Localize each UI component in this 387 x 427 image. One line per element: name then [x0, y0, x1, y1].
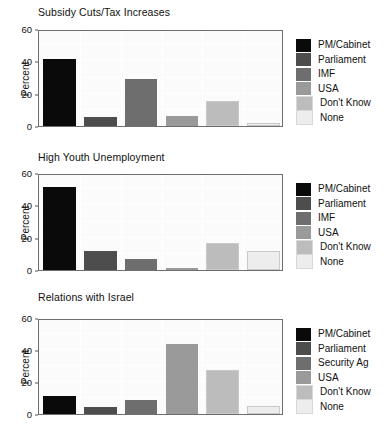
legend-label: Don't Know: [320, 98, 371, 108]
legend-label: PM/Cabinet: [318, 329, 370, 339]
y-tick-mark: [35, 383, 38, 384]
legend-swatch-icon: [296, 240, 313, 255]
legend-item[interactable]: Don't Know: [296, 96, 371, 111]
legend-swatch-icon: [296, 82, 311, 95]
legend-label: USA: [318, 373, 339, 383]
gridline-vertical: [121, 320, 122, 414]
gridline-vertical: [243, 175, 244, 270]
legend-label: PM/Cabinet: [318, 184, 370, 194]
legend-label: USA: [318, 228, 339, 238]
legend: PM/CabinetParliamentIMFUSADon't KnowNone: [296, 182, 371, 269]
legend-label: None: [320, 257, 344, 267]
bar: [206, 101, 239, 126]
y-tick-label: 40: [12, 58, 32, 68]
figure-panel: Subsidy Cuts/Tax IncreasesPercent0204060…: [0, 0, 387, 427]
legend-label: None: [320, 402, 344, 412]
legend-swatch-icon: [296, 254, 313, 269]
legend-item[interactable]: Parliament: [296, 342, 371, 357]
plot-area: [38, 319, 283, 415]
legend-swatch-icon: [296, 53, 311, 66]
legend-item[interactable]: None: [296, 111, 371, 126]
legend-item[interactable]: USA: [296, 226, 371, 241]
gridline-horizontal: [39, 349, 282, 350]
legend-item[interactable]: Parliament: [296, 53, 371, 68]
legend-label: PM/Cabinet: [318, 40, 370, 50]
y-tick-mark: [35, 62, 38, 63]
bar: [166, 268, 199, 270]
legend-item[interactable]: None: [296, 400, 371, 415]
chart-title: Relations with Israel: [38, 291, 134, 303]
y-tick-mark: [35, 319, 38, 320]
bar: [206, 243, 239, 270]
legend-item[interactable]: USA: [296, 82, 371, 97]
legend-swatch-icon: [296, 342, 311, 355]
legend-item[interactable]: Security Ag: [296, 356, 371, 371]
legend-item[interactable]: None: [296, 255, 371, 270]
chart-title: High Youth Unemployment: [38, 151, 165, 163]
y-tick-label: 0: [12, 410, 32, 420]
bar: [125, 400, 158, 414]
bar: [125, 259, 158, 270]
legend-label: USA: [318, 84, 339, 94]
gridline-horizontal: [39, 44, 282, 45]
y-tick-mark: [35, 415, 38, 416]
legend-item[interactable]: PM/Cabinet: [296, 38, 371, 53]
legend-swatch-icon: [296, 371, 311, 384]
gridline-horizontal: [39, 333, 282, 334]
gridline-vertical: [243, 320, 244, 414]
legend-item[interactable]: IMF: [296, 67, 371, 82]
legend-swatch-icon: [296, 96, 313, 111]
y-tick-mark: [35, 174, 38, 175]
y-tick-label: 20: [12, 378, 32, 388]
gridline-vertical: [80, 175, 81, 270]
legend-item[interactable]: PM/Cabinet: [296, 182, 371, 197]
y-tick-mark: [35, 127, 38, 128]
legend-item[interactable]: Don't Know: [296, 240, 371, 255]
gridline-vertical: [121, 175, 122, 270]
y-tick-label: 60: [12, 169, 32, 179]
legend-item[interactable]: USA: [296, 371, 371, 386]
y-tick-mark: [35, 206, 38, 207]
y-tick-label: 0: [12, 266, 32, 276]
legend-label: Security Ag: [318, 358, 369, 368]
legend-swatch-icon: [296, 212, 311, 225]
plot-area: [38, 30, 283, 127]
y-tick-label: 40: [12, 202, 32, 212]
legend-item[interactable]: PM/Cabinet: [296, 327, 371, 342]
legend-swatch-icon: [296, 399, 313, 414]
gridline-vertical: [162, 31, 163, 126]
y-tick-label: 0: [12, 122, 32, 132]
gridline-vertical: [202, 175, 203, 270]
legend-label: IMF: [318, 213, 335, 223]
y-tick-label: 60: [12, 25, 32, 35]
legend: PM/CabinetParliamentIMFUSADon't KnowNone: [296, 38, 371, 125]
legend-label: Don't Know: [320, 387, 371, 397]
bar: [166, 116, 199, 126]
bar: [166, 344, 199, 414]
bar: [43, 396, 76, 414]
legend-item[interactable]: Don't Know: [296, 385, 371, 400]
y-tick-mark: [35, 351, 38, 352]
legend-label: Parliament: [318, 199, 366, 209]
legend-swatch-icon: [296, 197, 311, 210]
legend-swatch-icon: [296, 68, 311, 81]
legend-item[interactable]: Parliament: [296, 197, 371, 212]
bar: [247, 123, 280, 126]
y-tick-mark: [35, 30, 38, 31]
gridline-vertical: [121, 31, 122, 126]
chart-title: Subsidy Cuts/Tax Increases: [38, 6, 170, 18]
y-tick-label: 60: [12, 314, 32, 324]
bar: [43, 59, 76, 126]
bar: [125, 79, 158, 126]
y-tick-mark: [35, 271, 38, 272]
legend-swatch-icon: [296, 110, 313, 125]
bar: [43, 187, 76, 270]
legend-swatch-icon: [296, 357, 311, 370]
gridline-horizontal: [39, 365, 282, 366]
legend-swatch-icon: [296, 226, 311, 239]
legend-item[interactable]: IMF: [296, 211, 371, 226]
bar: [206, 370, 239, 414]
legend-swatch-icon: [296, 39, 311, 52]
legend-swatch-icon: [296, 328, 311, 341]
legend-label: Parliament: [318, 55, 366, 65]
